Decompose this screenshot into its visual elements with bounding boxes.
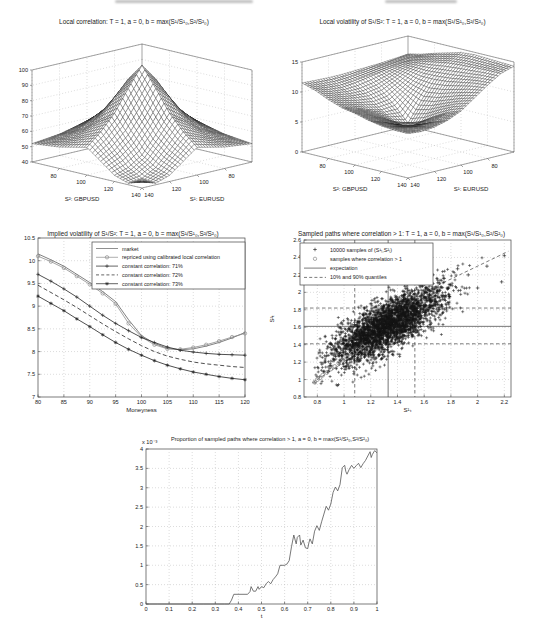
tick-label: 3 [140, 485, 143, 491]
tick-label: 9 [32, 303, 35, 309]
legend: marketrepriced using calibrated local co… [92, 242, 245, 289]
legend-item-label: expectation [330, 265, 358, 271]
tick-label: 90 [22, 82, 28, 88]
tick-label: 105 [163, 399, 172, 405]
tick-label: 140 [397, 182, 406, 188]
tick-label: 120 [371, 176, 380, 182]
tick-label: 0 [144, 606, 147, 612]
tick-label: 60 [22, 128, 28, 134]
tick-label: 0.7 [304, 606, 312, 612]
tick-label: 1 [343, 399, 346, 405]
local-correlation-surface: 4050607080901008010012014014012010080S²:… [2, 6, 266, 222]
x-axis-label: S²: GBPUSD [65, 196, 100, 202]
tick-label: 100 [137, 399, 146, 405]
tick-label: 9.5 [27, 280, 35, 286]
tick-label: 70 [22, 113, 28, 119]
tick-label: 1.4 [394, 399, 402, 405]
tick-label: 2 [140, 524, 143, 530]
y-axis-label: S²ₜ [269, 315, 275, 323]
tick-label: 115 [215, 399, 224, 405]
tick-label: 0.6 [281, 606, 289, 612]
tick-label: 80 [319, 163, 325, 169]
tick-label: 100 [344, 169, 353, 175]
tick-label: 140 [131, 192, 140, 198]
tick-label: 8 [32, 349, 35, 355]
tick-label: 1.5 [135, 543, 143, 549]
implied-volatility-chart: 8085909510010511011512077.588.599.51010.… [2, 226, 264, 424]
plot-local-volatility: Local volatility of S¹/S²: T = 1, a = 0,… [268, 6, 537, 222]
tick-label: 85 [61, 399, 67, 405]
tick-label: 1.6 [293, 324, 301, 330]
plot-proportion: Proportion of sampled paths where correl… [128, 432, 398, 636]
tick-label: 1 [375, 606, 378, 612]
tick-label: 10 [29, 258, 35, 264]
tick-label: 1.2 [293, 359, 301, 365]
legend-item-label: repriced using calibrated local correlat… [122, 254, 220, 260]
tick-label: 0 [295, 149, 298, 155]
tick-label: 2.5 [135, 504, 143, 510]
tick-label: 80 [50, 173, 56, 179]
tick-label: 95 [113, 399, 119, 405]
tick-label: 1.4 [293, 342, 301, 348]
legend-item-label: market [122, 246, 139, 252]
tick-label: 0.9 [350, 606, 358, 612]
tick-label: 0.5 [258, 606, 266, 612]
tick-label: 5 [295, 119, 298, 125]
tick-label: 120 [172, 186, 181, 192]
tick-label: 10.5 [24, 235, 35, 241]
x-axis-label: Moneyness [126, 407, 157, 413]
tick-label: 4 [140, 446, 143, 452]
legend-item-label: constant correlation: 71% [122, 263, 183, 269]
tick-label: 0.2 [188, 606, 196, 612]
x-axis-label: t [261, 613, 263, 619]
tick-label: 2.6 [293, 237, 301, 243]
tick-label: 15 [292, 59, 298, 65]
tick-label: 2 [476, 399, 479, 405]
local-volatility-surface: 0510158010012014014012010080S²: GBPUSDS¹… [268, 6, 537, 222]
plot-implied-volatility: Implied volatility of S¹/S²: T = 1, a = … [2, 226, 264, 424]
tick-label: 0.8 [327, 606, 335, 612]
tick-label: 100 [19, 67, 28, 73]
cropped-text-remnant [385, 0, 457, 3]
legend-item-label: constant correlation: 73% [122, 281, 183, 287]
tick-label: 110 [189, 399, 198, 405]
x-axis-label: S²: GBPUSD [333, 186, 368, 192]
tick-label: 80 [22, 98, 28, 104]
tick-label: 140 [144, 192, 153, 198]
y-axis-label: S¹: EURUSD [454, 186, 489, 192]
tick-label: 40 [22, 159, 28, 165]
legend-item-label: constant correlation: 72% [122, 272, 183, 278]
tick-label: 0.5 [135, 582, 143, 588]
tick-label: 0.8 [313, 399, 321, 405]
tick-label: 10 [292, 89, 298, 95]
figure-page: Local correlation: T = 1, a = 0, b = max… [0, 0, 537, 640]
legend-item-label: samples where correlation > 1 [330, 256, 402, 262]
tick-label: 1.2 [367, 399, 375, 405]
tick-label: 100 [463, 169, 472, 175]
tick-label: 1 [140, 562, 143, 568]
sampled-paths-scatter: 0.811.21.41.61.822.20.811.21.41.61.822.2… [266, 226, 537, 424]
tick-label: 90 [87, 399, 93, 405]
legend-item-label: 10000 samples of (S¹ₜ,S²ₜ) [330, 247, 392, 253]
tick-label: 7 [32, 394, 35, 400]
tick-label: 2 [298, 289, 301, 295]
tick-label: 0.3 [211, 606, 219, 612]
tick-label: 80 [35, 399, 41, 405]
y-axis-multiplier: x 10⁻³ [142, 439, 158, 445]
tick-label: 8.5 [27, 326, 35, 332]
tick-label: 0.4 [235, 606, 243, 612]
tick-label: 0.1 [165, 606, 173, 612]
tick-label: 50 [22, 144, 28, 150]
tick-label: 3.5 [135, 465, 143, 471]
surface-mesh [32, 65, 252, 183]
plot-local-correlation: Local correlation: T = 1, a = 0, b = max… [2, 6, 266, 222]
tick-label: 1.6 [420, 399, 428, 405]
legend-item-label: 10% and 90% quantiles [330, 274, 387, 280]
legend: 10000 samples of (S¹ₜ,S²ₜ)samples where … [300, 243, 433, 285]
tick-label: 0 [140, 601, 143, 607]
proportion-chart: 00.10.20.30.40.50.60.70.80.9100.511.522.… [128, 432, 398, 636]
tick-label: 0.8 [293, 394, 301, 400]
tick-label: 80 [228, 173, 234, 179]
cropped-text-remnant [115, 0, 253, 3]
tick-label: 2.2 [500, 399, 508, 405]
